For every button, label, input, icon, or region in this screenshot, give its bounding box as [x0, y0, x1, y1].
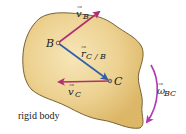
svg-text:BC: BC — [163, 89, 176, 98]
point-b — [56, 41, 60, 45]
v-c-vector — [59, 81, 110, 82]
rigid-body-diagram: B C v → B r → C / B v → C ω → BC rigid b… — [0, 0, 186, 134]
point-c — [108, 79, 112, 83]
svg-text:C / B: C / B — [86, 52, 106, 61]
svg-text:→: → — [158, 80, 163, 87]
svg-text:→: → — [69, 81, 74, 88]
omega-bc-arc — [147, 65, 157, 122]
point-b-label: B — [45, 37, 54, 50]
rigid-body-label: rigid body — [18, 110, 59, 121]
svg-text:→: → — [81, 43, 86, 50]
omega-bc-label: ω → BC — [157, 80, 176, 98]
svg-text:→: → — [77, 3, 82, 10]
v-b-label: v → B — [76, 3, 89, 21]
svg-text:C: C — [75, 90, 81, 99]
point-c-label: C — [114, 75, 123, 88]
svg-text:B: B — [82, 12, 89, 21]
